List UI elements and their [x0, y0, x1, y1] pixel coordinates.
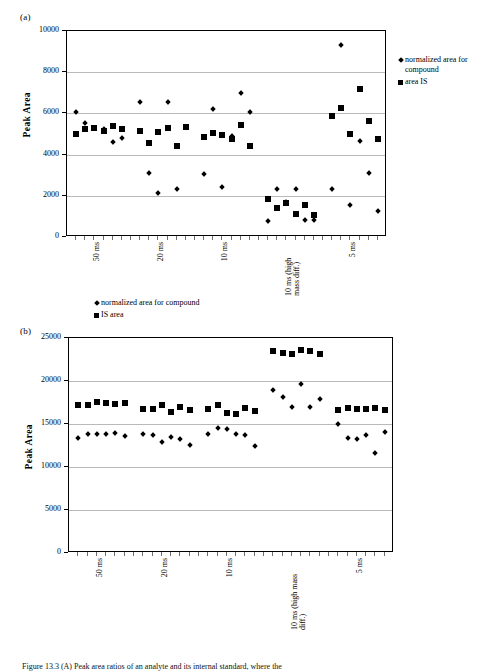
- data-point-is-area: [174, 143, 180, 149]
- x-axis-tick: [103, 236, 104, 240]
- data-point-normalized-area: [317, 396, 323, 402]
- y-axis-tick-label: 4000: [14, 150, 59, 158]
- x-axis-tick: [212, 236, 213, 240]
- data-point-normalized-area: [82, 120, 88, 126]
- data-point-is-area: [354, 406, 360, 412]
- data-point-normalized-area: [308, 404, 314, 410]
- data-point-is-area: [229, 136, 235, 142]
- data-point-is-area: [302, 202, 308, 208]
- y-axis-tick-label: 6000: [14, 108, 59, 116]
- x-axis-tick: [179, 552, 180, 556]
- y-axis-tick: [62, 154, 66, 155]
- data-point-normalized-area: [252, 443, 258, 449]
- legend-item[interactable]: area IS: [396, 77, 496, 87]
- x-axis-group-label: 5 ms: [349, 242, 357, 257]
- data-point-normalized-area: [137, 99, 143, 105]
- x-axis-tick: [203, 236, 204, 240]
- data-point-is-area: [112, 401, 118, 407]
- x-axis-tick: [198, 552, 199, 556]
- data-point-is-area: [233, 411, 239, 417]
- x-axis-group-label: 20 ms: [157, 242, 165, 261]
- data-point-is-area: [382, 407, 388, 413]
- data-point-normalized-area: [110, 139, 116, 145]
- data-point-is-area: [150, 406, 156, 412]
- data-point-is-area: [183, 124, 189, 130]
- data-point-is-area: [274, 205, 280, 211]
- x-axis-tick: [359, 236, 360, 240]
- data-point-is-area: [265, 196, 271, 202]
- y-axis-tick: [64, 380, 68, 381]
- x-axis-tick: [105, 552, 106, 556]
- x-axis-tick: [347, 552, 348, 556]
- gridline: [67, 196, 385, 197]
- data-point-normalized-area: [293, 186, 299, 192]
- data-point-is-area: [168, 409, 174, 415]
- data-point-normalized-area: [274, 186, 280, 192]
- y-axis-tick: [62, 30, 66, 31]
- data-point-normalized-area: [366, 171, 372, 177]
- x-axis-tick: [368, 236, 369, 240]
- x-axis-tick: [328, 552, 329, 556]
- y-axis-tick-label: 8000: [14, 67, 59, 75]
- data-point-is-area: [165, 125, 171, 131]
- x-axis-tick: [258, 236, 259, 240]
- data-point-normalized-area: [174, 186, 180, 192]
- data-point-normalized-area: [113, 431, 119, 437]
- legend-item[interactable]: normalized area for compound: [396, 55, 496, 75]
- data-point-normalized-area: [210, 106, 216, 112]
- x-axis-tick: [240, 236, 241, 240]
- x-axis-tick: [322, 236, 323, 240]
- data-point-is-area: [307, 348, 313, 354]
- x-axis-tick: [124, 552, 125, 556]
- x-axis-tick: [356, 552, 357, 556]
- data-point-is-area: [215, 402, 221, 408]
- x-axis-tick: [377, 236, 378, 240]
- panel-a: (a) Peak Area normalized area for compou…: [0, 0, 499, 296]
- data-point-is-area: [357, 86, 363, 92]
- data-point-is-area: [187, 407, 193, 413]
- x-axis-tick: [249, 236, 250, 240]
- y-axis-tick-label: 0: [16, 548, 61, 556]
- data-point-is-area: [122, 400, 128, 406]
- data-point-normalized-area: [233, 431, 239, 437]
- x-axis-group-label: 5 ms: [356, 558, 364, 573]
- x-axis-group-label: 10 ms (high mass diff.): [285, 242, 307, 296]
- x-axis-tick: [254, 552, 255, 556]
- x-axis-tick: [313, 236, 314, 240]
- data-point-is-area: [85, 402, 91, 408]
- legend-label: IS area: [101, 310, 123, 320]
- x-axis-tick: [148, 236, 149, 240]
- x-axis-group-label: 50 ms: [93, 242, 101, 261]
- legend-item[interactable]: IS area: [92, 310, 322, 320]
- x-axis-tick: [340, 236, 341, 240]
- data-point-is-area: [345, 405, 351, 411]
- x-axis-tick: [231, 236, 232, 240]
- y-axis-tick: [64, 423, 68, 424]
- x-axis-tick: [331, 236, 332, 240]
- x-axis-tick: [130, 236, 131, 240]
- y-axis-tick-label: 0: [14, 232, 59, 240]
- gridline: [69, 381, 392, 382]
- data-point-is-area: [335, 407, 341, 413]
- diamond-marker-icon: [396, 55, 405, 65]
- x-axis-tick: [133, 552, 134, 556]
- panel-b-plot-area: [68, 337, 393, 552]
- panel-a-plot-area: [66, 30, 386, 236]
- data-point-normalized-area: [280, 394, 286, 400]
- data-point-is-area: [205, 406, 211, 412]
- data-point-is-area: [219, 132, 225, 138]
- x-axis-tick: [161, 552, 162, 556]
- x-axis-tick: [139, 236, 140, 240]
- x-axis-tick: [272, 552, 273, 556]
- figure-caption: Figure 13.3 (A) Peak area ratios of an a…: [22, 662, 485, 672]
- legend-item[interactable]: normalized area for compound: [92, 298, 322, 308]
- data-point-is-area: [366, 118, 372, 124]
- x-axis-tick: [152, 552, 153, 556]
- data-point-is-area: [101, 128, 107, 134]
- data-point-is-area: [375, 136, 381, 142]
- data-point-is-area: [82, 126, 88, 132]
- data-point-normalized-area: [348, 202, 354, 208]
- data-point-is-area: [298, 347, 304, 353]
- x-axis-tick: [189, 552, 190, 556]
- data-point-is-area: [146, 140, 152, 146]
